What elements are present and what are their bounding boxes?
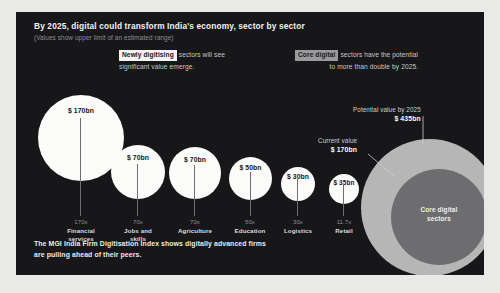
core-digital-label-line1: Core digital	[421, 206, 458, 213]
multiplier-jobs-and-skills: 70x	[106, 218, 170, 226]
chart-subtitle: (Values show upper limit of an estimated…	[34, 34, 174, 41]
leader-line-logistics	[297, 179, 298, 216]
footer-note-line2: are pulling ahead of their peers.	[34, 251, 141, 258]
bubble-value-education: $ 50bn	[229, 164, 272, 171]
annotation-core-digital: Core digital sectors have the potential …	[295, 49, 418, 72]
category-label-retail: 11.7x Retail	[320, 218, 368, 235]
bubble-value-retail: $ 35bn	[329, 179, 359, 186]
bubble-value-agriculture: $ 70bn	[169, 156, 221, 163]
multiplier-logistics: 30x	[272, 218, 324, 226]
infographic-page: By 2025, digital could transform India's…	[0, 0, 500, 293]
leader-line-agriculture	[194, 165, 195, 216]
annotation-newly-digitising-text: sectors will see	[177, 51, 225, 58]
legend-chip-core-digital: Core digital	[295, 50, 338, 61]
footer-note: The MGI India Firm Digitisation Index sh…	[34, 238, 266, 260]
category-label-agriculture: 70x Agriculture	[165, 218, 225, 235]
category-name-jobs-and-skills: Jobs and	[106, 227, 170, 235]
bubble-value-logistics: $ 30bn	[281, 173, 315, 180]
callout-potential-label: Potential value by 2025	[353, 106, 421, 113]
callout-current-value: Current value $ 170bn	[318, 136, 357, 154]
callout-current-label: Current value	[318, 137, 357, 144]
leader-line-retail	[343, 184, 344, 216]
core-digital-inner-circle: Core digital sectors	[391, 169, 484, 265]
callout-potential-value: Potential value by 2025 $ 435bn	[353, 105, 421, 123]
multiplier-retail: 11.7x	[320, 218, 368, 226]
category-label-education: 50x Education	[222, 218, 278, 235]
category-name-education: Education	[222, 227, 278, 235]
callout-potential-leader-line	[421, 116, 433, 146]
category-name-logistics: Logistics	[272, 227, 324, 235]
core-digital-label: Core digital sectors	[391, 205, 484, 223]
bubble-logistics: $ 30bn	[281, 167, 315, 201]
multiplier-agriculture: 70x	[165, 218, 225, 226]
callout-potential-value: $ 435bn	[394, 115, 420, 122]
category-name-agriculture: Agriculture	[165, 227, 225, 235]
multiplier-education: 50x	[222, 218, 278, 226]
bubble-value-financial-services: $ 170bn	[38, 107, 124, 114]
leader-line-education	[250, 172, 251, 216]
bubble-agriculture: $ 70bn	[169, 147, 221, 199]
annotation-core-digital-text-2: to more than double by 2025.	[295, 61, 418, 73]
chart-panel: By 2025, digital could transform India's…	[16, 12, 484, 275]
bubble-value-jobs-and-skills: $ 70bn	[111, 154, 165, 161]
leader-line-jobs-and-skills	[137, 164, 138, 216]
page-title: By 2025, digital could transform India's…	[34, 21, 305, 31]
annotation-newly-digitising: Newly digitising sectors will see signif…	[119, 49, 225, 72]
callout-current-leader-line	[368, 154, 402, 180]
category-name-retail: Retail	[320, 227, 368, 235]
leader-line-financial-services	[80, 118, 81, 216]
category-label-logistics: 30x Logistics	[272, 218, 324, 235]
annotation-newly-digitising-text-2: significant value emerge.	[119, 61, 225, 73]
legend-chip-newly-digitising: Newly digitising	[119, 50, 177, 61]
footer-note-line1: The MGI India Firm Digitisation Index sh…	[34, 240, 266, 247]
core-digital-label-line2: sectors	[427, 215, 451, 222]
bubble-retail: $ 35bn	[329, 174, 359, 204]
annotation-core-digital-text: sectors have the potential	[338, 51, 418, 58]
bubble-jobs-and-skills: $ 70bn	[111, 145, 165, 199]
callout-current-value: $ 170bn	[331, 146, 357, 153]
